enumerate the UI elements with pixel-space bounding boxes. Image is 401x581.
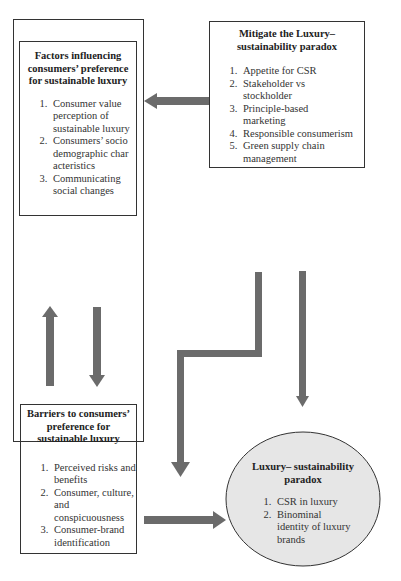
barriers-item: Perceived risks and benefits <box>51 462 136 487</box>
arrow-elbow-to-paradox <box>171 272 262 477</box>
factors-box: Factors influencing consumers’ preferenc… <box>19 41 137 216</box>
factors-item: Communicating social changes <box>50 173 132 198</box>
mitigate-item: Principle-based marketing <box>240 103 362 128</box>
factors-item: Consumer value perception of sustainable… <box>50 98 132 136</box>
mitigate-item: Green supply chain management <box>240 140 362 165</box>
paradox-ellipse: Luxury– sustainability paradox CSR in lu… <box>240 461 366 546</box>
arrow-down-to-paradox <box>296 271 309 407</box>
mitigate-item: Appetite for CSR <box>240 65 362 78</box>
barriers-title: Barriers to consumers’ preference for su… <box>21 408 136 446</box>
paradox-title: Luxury– sustainability paradox <box>240 461 366 486</box>
paradox-item: Binominal identity of luxury brands <box>274 509 354 547</box>
mitigate-item: Responsible consumerism <box>240 128 362 141</box>
barriers-item: Consumer-brand identification <box>51 524 136 549</box>
factors-title: Factors influencing consumers’ preferenc… <box>20 50 136 88</box>
mitigate-list: Appetite for CSR Stakeholder vs stockhol… <box>210 65 364 165</box>
mitigate-title: Mitigate the Luxury–sustainability parad… <box>210 28 364 53</box>
factors-item: Consumers’ sociodemographic characterist… <box>50 135 132 173</box>
barriers-list: Perceived risks and benefits Consumer, c… <box>21 462 136 550</box>
arrow-barriers-to-paradox <box>144 511 226 529</box>
barriers-item: Consumer, culture, and conspicuousness <box>51 487 136 525</box>
paradox-list: CSR in luxury Binominal identity of luxu… <box>240 496 366 546</box>
mitigate-item: Stakeholder vs stockholder <box>240 78 362 103</box>
arrow-mitigate-to-factors <box>144 93 209 109</box>
barriers-box: Barriers to consumers’ preference for su… <box>20 404 137 554</box>
factors-list: Consumer value perception of sustainable… <box>20 98 136 198</box>
paradox-item: CSR in luxury <box>274 496 354 509</box>
mitigate-box: Mitigate the Luxury–sustainability parad… <box>209 21 365 168</box>
